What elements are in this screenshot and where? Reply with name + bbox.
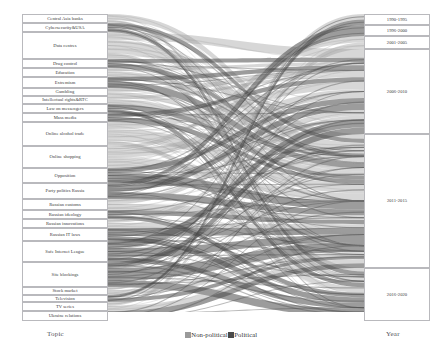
topic-node[interactable]: Television <box>22 295 108 302</box>
topic-node-label: Law on messengers <box>45 106 84 111</box>
year-node-label: 2011-2015 <box>386 198 408 203</box>
year-node[interactable]: 1996-2000 <box>364 25 430 36</box>
topic-node[interactable]: Russian IT laws <box>22 228 108 241</box>
alluvial-chart: Central Asia banksCybersecurity&USAData … <box>0 0 442 353</box>
legend-swatch <box>228 332 234 338</box>
legend-item: Non-political <box>185 331 228 338</box>
topic-node[interactable]: Stock market <box>22 287 108 295</box>
topic-node[interactable]: Russian ideology <box>22 210 108 219</box>
topic-node[interactable]: Data centres <box>22 32 108 59</box>
year-node[interactable]: 2001-2005 <box>364 36 430 49</box>
flow-svg <box>108 12 364 312</box>
topic-node-label: Extremism <box>54 80 77 85</box>
year-node[interactable]: 2006-2010 <box>364 49 430 134</box>
topic-node[interactable]: Gambling <box>22 88 108 96</box>
topic-node[interactable]: Russian innovations <box>22 219 108 228</box>
topic-node-label: Party politics Russia <box>45 188 86 193</box>
topic-node-label: Russian customs <box>48 202 82 207</box>
topic-node-label: Central Asia banks <box>46 16 84 21</box>
topic-node-label: Mass media <box>53 115 78 120</box>
topic-node[interactable]: Extremism <box>22 77 108 88</box>
topic-node[interactable]: Education <box>22 68 108 77</box>
year-node-label: 1990-1995 <box>386 17 408 22</box>
topic-node-label: Opposition <box>54 173 77 178</box>
topic-node-label: Safe Internet League <box>44 249 85 254</box>
topic-node[interactable]: Law on messengers <box>22 104 108 113</box>
topic-node[interactable]: Online shopping <box>22 146 108 168</box>
flow-ribbons <box>108 12 364 312</box>
legend-label: Political <box>234 331 257 338</box>
topic-node-label: Ukraine relations <box>48 313 83 318</box>
year-node-label: 2016-2020 <box>386 292 408 297</box>
topic-node[interactable]: TV series <box>22 302 108 311</box>
topic-node[interactable]: Central Asia banks <box>22 14 108 23</box>
year-node-label: 2001-2005 <box>386 40 408 45</box>
topic-node[interactable]: Safe Internet League <box>22 241 108 262</box>
topic-node-label: Cybersecurity&USA <box>44 25 85 30</box>
year-node[interactable]: 1990-1995 <box>364 14 430 25</box>
topic-node-label: Russian IT laws <box>49 232 81 237</box>
topic-node-label: Russian ideology <box>48 212 83 217</box>
topic-node-label: Drug control <box>52 61 78 66</box>
topic-node[interactable]: Online alcohol trade <box>22 122 108 146</box>
year-node[interactable]: 2016-2020 <box>364 268 430 321</box>
topic-node[interactable]: Ukraine relations <box>22 311 108 321</box>
year-node[interactable]: 2011-2015 <box>364 134 430 268</box>
topic-node-label: Online alcohol trade <box>45 131 86 136</box>
topic-node-label: Education <box>54 70 75 75</box>
topic-node[interactable]: Opposition <box>22 168 108 183</box>
legend-label: Non-political <box>191 331 227 338</box>
topic-node-label: TV series <box>55 304 75 309</box>
topic-node-label: Gambling <box>55 89 76 94</box>
topic-node-label: Television <box>54 296 76 301</box>
year-node-label: 2006-2010 <box>386 89 408 94</box>
topic-node-label: Russian innovations <box>45 221 85 226</box>
topic-node[interactable]: Russian customs <box>22 199 108 210</box>
topic-node[interactable]: Intellectual rights&RTC <box>22 96 108 104</box>
topic-node-label: Stock market <box>52 288 79 293</box>
topic-node[interactable]: Mass media <box>22 113 108 122</box>
topic-node-label: Online shopping <box>48 154 81 159</box>
topic-node[interactable]: Site blockings <box>22 262 108 287</box>
legend: Non-politicalPolitical <box>0 331 442 338</box>
topic-node-label: Data centres <box>52 43 77 48</box>
legend-swatch <box>185 332 191 338</box>
year-node-label: 1996-2000 <box>386 28 408 33</box>
topic-node[interactable]: Cybersecurity&USA <box>22 23 108 32</box>
legend-item: Political <box>228 331 257 338</box>
topic-node[interactable]: Drug control <box>22 59 108 68</box>
topic-node-label: Intellectual rights&RTC <box>41 97 89 102</box>
topic-node-label: Site blockings <box>51 272 80 277</box>
topic-node[interactable]: Party politics Russia <box>22 183 108 199</box>
